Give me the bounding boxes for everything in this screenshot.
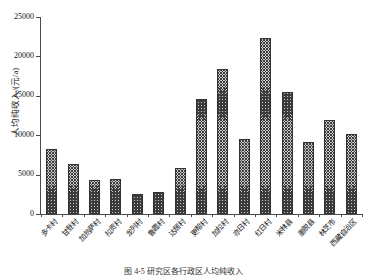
y-tick-label: 20000 <box>2 51 34 60</box>
figure-caption: 图 4-5 研究区各行政区人均纯收入 <box>0 265 367 276</box>
bar-series <box>41 17 362 214</box>
y-tick-label: 25000 <box>2 12 34 21</box>
y-tick-mark <box>36 214 40 215</box>
bar <box>196 99 207 214</box>
bar <box>217 69 228 214</box>
bar <box>303 142 314 214</box>
bar <box>175 168 186 214</box>
bar <box>239 139 250 214</box>
bar <box>260 38 271 214</box>
bar <box>68 164 79 214</box>
y-tick-mark <box>36 96 40 97</box>
bar <box>324 120 335 214</box>
plot-area: 0500010000150002000025000 <box>40 17 362 214</box>
bar <box>346 134 357 214</box>
y-tick-mark <box>36 17 40 18</box>
x-axis-line <box>40 214 362 215</box>
y-tick-label: 15000 <box>2 90 34 99</box>
y-tick-label: 10000 <box>2 130 34 139</box>
y-tick-mark <box>36 135 40 136</box>
bar <box>89 180 100 214</box>
y-tick-mark <box>36 175 40 176</box>
y-tick-label: 0 <box>2 209 34 218</box>
bar <box>46 149 57 214</box>
bar <box>282 92 293 214</box>
bar <box>153 192 164 214</box>
y-axis-label: 人均纯收入/(元/a) <box>8 42 20 162</box>
bar <box>110 179 121 214</box>
y-tick-label: 5000 <box>2 169 34 178</box>
bar <box>132 194 143 214</box>
x-axis-labels: 多卡村甘登村加热萨村拉贡村龙列村鲁霞村达居村更帮村加拉村亦日村红日村米林县墨脱县… <box>40 216 367 268</box>
y-tick-mark <box>36 56 40 57</box>
